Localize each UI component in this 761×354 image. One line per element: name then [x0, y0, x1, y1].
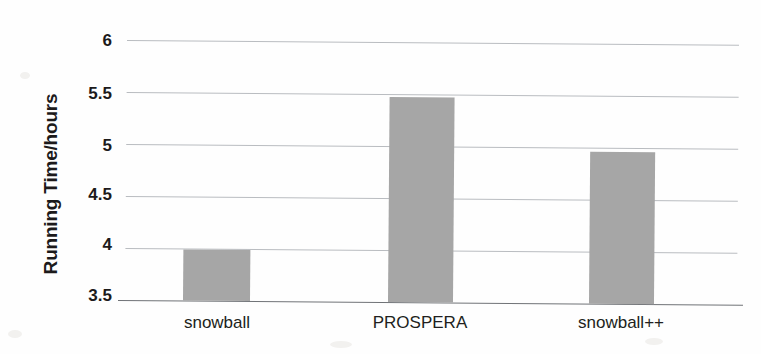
scan-artifact — [8, 330, 22, 338]
scan-artifact — [330, 341, 352, 348]
x-category-label-snowball: snowball — [152, 313, 282, 333]
bar-chart: Running Time/hours 6 5.5 5 4.5 4 3.5 sno… — [0, 0, 761, 354]
bar-snowball-plusplus — [589, 152, 655, 304]
bar-prospera — [388, 97, 455, 302]
plot-area — [0, 0, 761, 354]
x-category-label-prospera: PROSPERA — [355, 313, 485, 333]
x-category-label-snowball-plusplus: snowball++ — [556, 313, 686, 333]
gridline-6 — [127, 40, 739, 46]
bar-snowball — [183, 249, 250, 300]
scan-artifact — [645, 338, 663, 345]
scan-artifact — [20, 72, 30, 79]
